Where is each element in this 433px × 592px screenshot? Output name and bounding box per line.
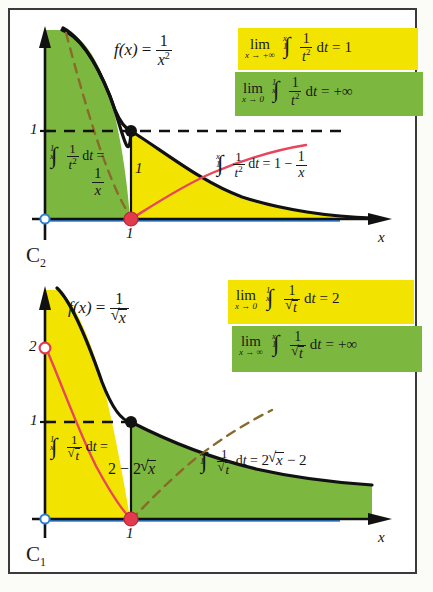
panel-name-c2: C2 (26, 243, 46, 271)
annotation-left-integral-bottom: 1 ∫ x 1 t dt = (50, 433, 108, 462)
point-1-1-filled-top (125, 125, 137, 137)
dt-text: dt (248, 156, 259, 171)
lim-subscript: x → 0 (235, 302, 257, 311)
tick-label-y1-top: 1 (30, 121, 38, 138)
dt-text: dt (305, 83, 317, 99)
frac-num: 1 (156, 33, 172, 50)
callout-green-top: lim x → 0 1 ∫ x 1 t2 dt = +∞ (235, 72, 423, 116)
dt-text: dt (310, 336, 322, 352)
integral-sign-icon: ∫ (51, 147, 57, 164)
integral-sign-icon: ∫ (284, 37, 290, 54)
axis-label-x-bottom: x (378, 529, 385, 546)
limit-value: 1 (345, 39, 353, 55)
axis-label-x-top: x (378, 229, 385, 246)
point-0-2-open-red-bottom (40, 343, 51, 354)
sqrt-icon: t (69, 448, 81, 463)
dt-text: dt (82, 148, 93, 163)
integral-sign-icon: ∫ (273, 335, 279, 352)
x-axis-arrow-bottom (368, 513, 392, 525)
callout-yellow-bottom: lim x → 0 1 ∫ x 1 t dt = 2 (228, 280, 414, 324)
annotation-right-integral-bottom: x ∫ 1 1 t dt = 2x − 2 (200, 447, 307, 476)
sqrt-icon: x (141, 460, 156, 477)
sqrt-icon: x (269, 452, 284, 468)
callout-yellow-top: lim x → +∞ x ∫ 1 1 t2 dt = 1 (238, 28, 418, 70)
panel-name-c1: C1 (26, 542, 46, 570)
sqrt-icon: t (292, 346, 304, 362)
point-1-0-red-top (124, 212, 138, 226)
limit-value: +∞ (334, 83, 353, 99)
sqrt-icon: t (286, 300, 298, 316)
tick-label-x1-bottom: 1 (126, 525, 134, 542)
integral-sign-icon: ∫ (217, 155, 223, 172)
annotation-right-integral-top: x ∫ 1 1 t2 dt = 1 − 1 x (216, 150, 307, 180)
annotation-left-integral-rhs-bottom: 2 − 2x (108, 460, 156, 477)
x-axis-arrow-top (368, 213, 392, 225)
lim-subscript: x → +∞ (245, 51, 275, 60)
integral-sign-icon: ∫ (201, 452, 207, 469)
point-1-1-filled-bottom (125, 416, 137, 428)
callout-green-bottom: lim x → ∞ x ∫ 1 1 t dt = +∞ (232, 326, 422, 372)
dt-text: dt (86, 439, 97, 454)
integral-sign-icon: ∫ (51, 438, 57, 455)
lim-subscript: x → ∞ (239, 348, 263, 357)
point-1-0-red-bottom (124, 512, 138, 526)
panel-c1: f(x) = 1 x lim x → 0 1 ∫ x 1 t dt = (0, 270, 433, 580)
figure-page: f(x) = 1 x2 lim x → +∞ x ∫ 1 1 t2 dt = (0, 0, 433, 592)
integral-sign-icon: ∫ (267, 289, 273, 306)
tick-label-x1-top: 1 (126, 225, 134, 242)
limit-value: +∞ (338, 336, 357, 352)
panel-c2: f(x) = 1 x2 lim x → +∞ x ∫ 1 1 t2 dt = (0, 0, 433, 296)
label-function-top: f(x) = 1 x2 (114, 33, 172, 69)
tick-label-y1-bottom: 1 (30, 412, 38, 429)
point-origin-open-bottom (40, 514, 49, 523)
limit-value: 2 (332, 290, 340, 306)
frac-den: x2 (156, 50, 172, 69)
sqrt-icon: x (112, 309, 127, 327)
tick-label-y2-bottom: 2 (29, 338, 37, 355)
annotation-left-integral-rhs-top: 1 x (92, 166, 104, 199)
integral-sign-icon: ∫ (273, 81, 279, 98)
dt-text: dt (304, 290, 316, 306)
label-function-bottom: f(x) = 1 x (68, 291, 129, 327)
point-origin-open-top (40, 214, 49, 223)
dt-text: dt (316, 39, 328, 55)
sqrt-icon: t (219, 462, 231, 477)
dt-text: dt (236, 453, 247, 468)
tick-label-inner1-top: 1 (135, 160, 143, 177)
lim-subscript: x → 0 (242, 95, 264, 104)
